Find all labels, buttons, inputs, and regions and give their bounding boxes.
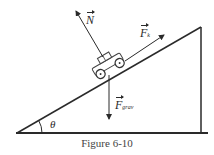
figure-caption: Figure 6-10 <box>0 137 214 149</box>
normal-force-label: N <box>86 14 94 26</box>
kinetic-force-label: Fk <box>140 27 150 39</box>
gravity-force-label: Fgrav <box>115 99 133 111</box>
angle-arc <box>39 121 42 134</box>
angle-theta-label: θ <box>50 119 55 130</box>
car-icon <box>89 48 126 81</box>
inclined-plane-figure: N Fk Fgrav θ Figure 6-10 <box>0 0 214 155</box>
diagram-canvas <box>0 0 214 155</box>
